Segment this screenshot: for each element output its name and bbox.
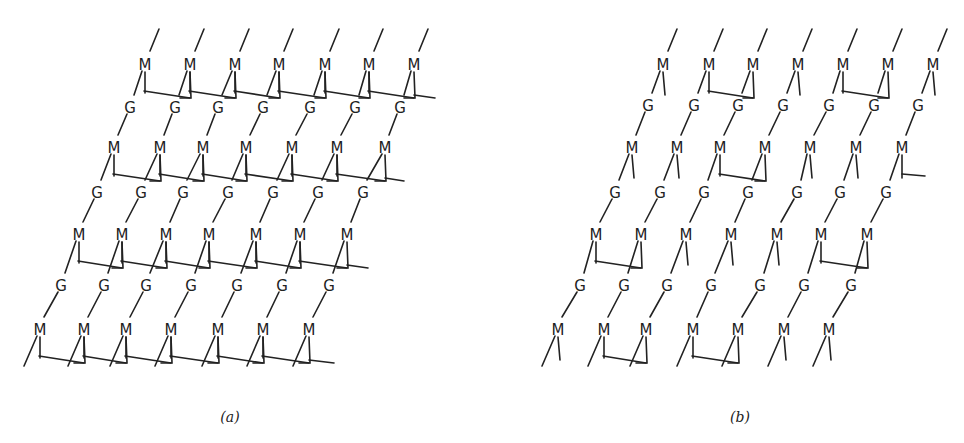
strand-segment: [690, 199, 701, 222]
peptide-stem-free: [663, 72, 665, 95]
strand-segment: [83, 199, 94, 222]
strand-segment: [677, 336, 690, 366]
node-g: G: [777, 97, 789, 115]
strand-segment: [938, 29, 947, 51]
crosslink-bridge: [719, 174, 765, 181]
strand-segment: [681, 112, 691, 135]
strand-segment: [758, 29, 767, 51]
strand-segment: [825, 199, 837, 222]
node-g: G: [185, 277, 197, 295]
crosslink-bridge: [595, 261, 641, 268]
strand-segment: [922, 71, 930, 93]
node-g: G: [323, 277, 335, 295]
strand-segment: [833, 292, 848, 317]
strand-segment: [374, 29, 383, 51]
strand-segment: [65, 241, 76, 273]
node-g: G: [169, 99, 181, 117]
strand-segment: [871, 199, 883, 222]
strand-segment: [844, 154, 853, 180]
node-g: G: [276, 277, 288, 295]
strand-segment: [314, 71, 322, 95]
strand-segment: [44, 292, 58, 317]
crosslink-bridge: [708, 91, 753, 98]
strand-segment: [359, 71, 366, 95]
crosslink-bridge: [189, 91, 235, 98]
node-g: G: [357, 184, 369, 202]
peptide-stem-free: [558, 337, 560, 360]
strand-segment: [296, 114, 307, 135]
crosslink-bridge: [78, 261, 122, 268]
strand-segment: [735, 199, 745, 222]
strand-segment: [419, 29, 428, 51]
node-g: G: [231, 277, 243, 295]
strand-segment: [179, 71, 187, 95]
strand-segment: [742, 292, 757, 317]
strand-segment: [808, 241, 818, 273]
strand-segment: [250, 114, 260, 135]
strand-segment: [134, 71, 142, 95]
strand-segment: [619, 154, 629, 180]
glycan-strand-diagram: MMMMMMMGGGGGGGMMMMMMMGGGGGGGMMMMMMMGGGGG…: [0, 0, 964, 443]
strand-segment: [788, 292, 801, 317]
node-g: G: [304, 99, 316, 117]
node-g: G: [574, 277, 586, 295]
crosslink-bridge: [113, 174, 160, 181]
peptide-stem-free: [686, 242, 688, 265]
strand-segment: [814, 112, 826, 135]
crosslink-bridge: [692, 356, 738, 363]
strand-segment: [170, 199, 180, 222]
strand-segment: [404, 71, 411, 95]
strand-segment: [164, 114, 172, 135]
crosslink-bridge: [208, 261, 256, 268]
peptide-stem-free: [777, 242, 779, 265]
strand-segment: [803, 29, 812, 51]
strand-segment: [848, 29, 857, 51]
crosslink-tail: [309, 360, 334, 363]
peptide-stem-free: [856, 155, 858, 178]
strand-segment: [267, 292, 279, 317]
strand-segment: [715, 241, 728, 273]
crosslink-tail: [347, 265, 368, 268]
node-g: G: [140, 277, 152, 295]
node-g: G: [661, 277, 673, 295]
node-g: G: [823, 97, 835, 115]
strand-segment: [608, 292, 621, 317]
strand-segment: [742, 71, 750, 93]
strand-segment: [222, 71, 232, 95]
figure: MMMMMMMGGGGGGGMMMMMMMGGGGGGGMMMMMMMGGGGG…: [0, 0, 964, 443]
node-g: G: [257, 99, 269, 117]
strand-segment: [367, 154, 382, 180]
strand-segment: [769, 112, 780, 135]
node-g: G: [349, 99, 361, 117]
node-g: G: [222, 184, 234, 202]
peptide-stem-free: [731, 242, 733, 265]
node-g: G: [212, 99, 224, 117]
crosslink-bridge: [368, 91, 414, 98]
crosslink-bridge: [83, 356, 126, 363]
node-g: G: [868, 97, 880, 115]
node-g: G: [98, 277, 110, 295]
strand-segment: [813, 336, 826, 366]
peptide-stem-free: [798, 72, 800, 95]
node-g: G: [688, 97, 700, 115]
node-g: G: [845, 277, 857, 295]
crosslink-bridge: [278, 91, 325, 98]
peptide-stem-free: [784, 337, 786, 360]
panel-caption-b: (b): [730, 409, 750, 425]
strand-segment: [145, 154, 157, 180]
crosslink-bridge: [165, 261, 209, 268]
strand-segment: [768, 336, 781, 366]
peptide-stem: [375, 155, 386, 181]
panel-b-partially-crosslinked: MMMMMMMGGGGGGGMMMMMMMGGGGGGGMMMMMMMGGGGG…: [542, 29, 947, 425]
strand-segment: [833, 71, 840, 93]
strand-segment: [313, 292, 326, 317]
strand-segment: [542, 336, 555, 366]
crosslink-bridge: [170, 356, 218, 363]
strand-segment: [708, 154, 717, 180]
crosslink-bridge: [159, 174, 203, 181]
node-g: G: [394, 99, 406, 117]
crosslink-bridge: [262, 356, 309, 363]
strand-segment: [650, 292, 664, 317]
strand-segment: [341, 114, 352, 135]
node-g: G: [880, 184, 892, 202]
